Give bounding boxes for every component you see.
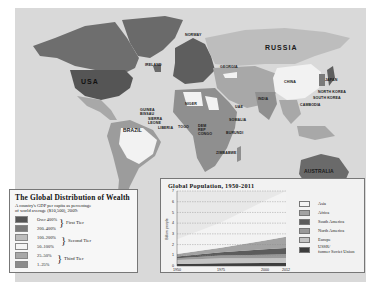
- tier-second-label: Second Tier: [68, 238, 91, 243]
- wealth-legend-label: 200–400%: [37, 226, 56, 231]
- label-liberia: LIBERIA: [158, 127, 173, 131]
- label-uae: UAE: [235, 106, 243, 110]
- label-japan: JAPAN: [325, 79, 337, 83]
- legend-swatch: [299, 219, 310, 225]
- wealth-legend-row: 50–100%: [15, 243, 28, 251]
- legend-label: USSR/ former Soviet Union: [318, 245, 354, 254]
- swatch-50-100: [15, 243, 28, 250]
- label-ireland: IRELAND: [145, 64, 162, 68]
- wealth-legend-row: 200–400%: [15, 225, 28, 233]
- legend-item-europe: Europe: [299, 237, 310, 243]
- legend-item-ussr: USSR/ former Soviet Union: [299, 247, 310, 253]
- label-russia: RUSSIA: [265, 44, 297, 51]
- legend-swatch: [299, 247, 310, 253]
- svg-text:3: 3: [172, 232, 174, 236]
- y-axis-label: Billion people: [165, 218, 169, 239]
- svg-text:2000: 2000: [261, 268, 269, 272]
- wealth-legend-label: 100–200%: [37, 235, 56, 240]
- wealth-legend-title: The Global Distribution of Wealth: [15, 193, 132, 202]
- wealth-legend-panel: The Global Distribution of Wealth A coun…: [9, 189, 138, 273]
- label-usa: USA: [81, 78, 99, 85]
- label-somalia: SOMALIA: [229, 119, 246, 123]
- swatch-over-400: [15, 216, 28, 223]
- wealth-legend-row: Over 400%: [15, 216, 28, 224]
- tier-first-label: First Tier: [66, 220, 84, 225]
- legend-label: Africa: [318, 211, 329, 216]
- wealth-legend-label: 1–25%: [37, 262, 49, 267]
- wealth-legend-subtitle-line2: of world average ($10,500), 2009:: [15, 208, 132, 213]
- label-zimbabwe: ZIMBABWE: [216, 152, 237, 156]
- label-dem-rep-congo: DEM REP CONGO: [198, 125, 212, 137]
- wealth-legend-row: 25–50%: [15, 252, 28, 260]
- legend-label: Europe: [318, 238, 331, 243]
- tier-third-label: Third Tier: [64, 256, 84, 261]
- legend-label: South America: [318, 220, 344, 225]
- svg-text:6: 6: [172, 200, 174, 204]
- svg-text:1: 1: [172, 253, 174, 257]
- swatch-200-400: [15, 225, 28, 232]
- brace-second-tier: }: [61, 235, 66, 246]
- label-guinea-bissau: GUINEA BISSAU: [140, 109, 158, 117]
- svg-text:1975: 1975: [217, 268, 225, 272]
- swatch-1-25: [15, 261, 28, 268]
- wealth-legend-label: 25–50%: [37, 253, 52, 258]
- legend-label: North America: [318, 229, 344, 234]
- label-norway: NORWAY: [185, 34, 201, 38]
- label-niger: NIGER: [185, 103, 197, 107]
- svg-text:7: 7: [172, 189, 174, 193]
- label-china: CHINA: [284, 81, 296, 85]
- label-south-korea: SOUTH KOREA: [313, 97, 341, 101]
- legend-swatch: [299, 237, 310, 243]
- svg-text:2012: 2012: [282, 268, 290, 272]
- wealth-legend-row: 1–25%: [15, 261, 28, 269]
- legend-swatch: [299, 201, 310, 207]
- swatch-100-200: [15, 234, 28, 241]
- population-area-chart: 01234567 1950197520002012 Billion people: [161, 179, 366, 274]
- label-north-korea: NORTH KOREA: [318, 91, 346, 95]
- y-tick-labels: 01234567: [172, 189, 174, 268]
- population-chart-panel: Global Population, 1950-2011 01234567 19…: [160, 178, 365, 273]
- svg-text:1950: 1950: [173, 268, 181, 272]
- label-burundi: BURUNDI: [226, 132, 243, 136]
- label-georgia: GEORGIA: [220, 66, 238, 70]
- wealth-legend-subtitle: A country's GDP per capita as percentage…: [15, 203, 132, 214]
- wealth-legend-label: 50–100%: [37, 244, 54, 249]
- x-tick-labels: 1950197520002012: [173, 268, 290, 272]
- legend-item-north-america: North America: [299, 228, 310, 234]
- legend-item-africa: Africa: [299, 210, 310, 216]
- wealth-legend-label: Over 400%: [37, 217, 57, 222]
- label-india: INDIA: [258, 98, 268, 102]
- label-togo: TOGO: [178, 126, 189, 130]
- svg-text:4: 4: [172, 221, 174, 225]
- legend-item-asia: Asia: [299, 201, 310, 207]
- brace-first-tier: }: [59, 217, 64, 228]
- madagascar-shape: [237, 146, 241, 162]
- legend-label: Asia: [318, 202, 326, 207]
- legend-label-line2: former Soviet Union: [318, 249, 354, 254]
- swatch-25-50: [15, 252, 28, 259]
- label-brazil: BRAZIL: [123, 128, 142, 133]
- label-cambodia: CAMBODIA: [300, 104, 321, 108]
- label-sierra-leone: SIERRA LEONE: [148, 118, 164, 126]
- wealth-legend-row: 100–200%: [15, 234, 28, 242]
- svg-text:5: 5: [172, 211, 174, 215]
- brace-third-tier: }: [57, 253, 62, 264]
- legend-item-south-america: South America: [299, 219, 310, 225]
- svg-text:2: 2: [172, 243, 174, 247]
- legend-swatch: [299, 228, 310, 234]
- label-australia: AUSTRALIA: [304, 169, 334, 174]
- legend-swatch: [299, 210, 310, 216]
